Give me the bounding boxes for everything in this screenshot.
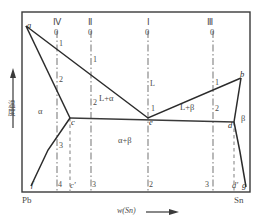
stage-number-II-3: 3 bbox=[92, 181, 96, 189]
solvus-left-curve bbox=[31, 118, 70, 186]
point-label-c-prime: c' bbox=[70, 181, 76, 190]
point-label-g: g bbox=[242, 181, 246, 190]
stage-label-I-L: L bbox=[150, 80, 155, 88]
region-label-liquid-plus-beta: L+β bbox=[180, 103, 194, 112]
point-label-a: a bbox=[27, 21, 31, 30]
x-axis-arrow bbox=[146, 209, 179, 215]
stage-number-II-2: 2 bbox=[93, 99, 97, 107]
axis-endpoint-pb: Pb bbox=[22, 196, 32, 205]
plot-frame bbox=[22, 12, 250, 192]
solidus-left-curve bbox=[26, 26, 70, 118]
region-label-liquid-plus-alpha: L+α bbox=[99, 94, 113, 103]
alloy-zero-I: 0 bbox=[145, 28, 149, 37]
stage-number-IV-2: 2 bbox=[59, 76, 63, 84]
point-label-d-prime: d' bbox=[232, 181, 238, 190]
alloy-zero-II: 0 bbox=[88, 28, 92, 37]
region-label-alpha-plus-beta: α+β bbox=[118, 136, 132, 145]
x-axis-label: w(Sn) bbox=[117, 207, 136, 215]
y-axis-label: 温度 bbox=[7, 100, 15, 116]
solvus-right-curve bbox=[234, 122, 246, 187]
alloy-label-III: Ⅲ bbox=[207, 18, 213, 27]
point-label-c: c bbox=[71, 118, 75, 127]
alloy-zero-IV: 0 bbox=[54, 28, 58, 37]
stage-number-III-2: 2 bbox=[215, 105, 219, 113]
alloy-label-IV: Ⅳ bbox=[53, 18, 61, 27]
point-label-d: d bbox=[228, 121, 232, 130]
point-label-e: e bbox=[149, 118, 153, 127]
y-axis-arrow bbox=[10, 68, 16, 128]
alloy-label-I: Ⅰ bbox=[147, 18, 150, 27]
stage-number-III-1: 1 bbox=[215, 79, 219, 87]
stage-number-II-1: 1 bbox=[93, 56, 97, 64]
axis-endpoint-sn: Sn bbox=[234, 196, 244, 205]
region-label-alpha: α bbox=[38, 107, 42, 116]
stage-number-IV-4: 4 bbox=[58, 181, 62, 189]
point-label-b: b bbox=[240, 70, 244, 79]
stage-number-III-3: 3 bbox=[205, 181, 209, 189]
stage-number-IV-3: 3 bbox=[59, 142, 63, 150]
phase-diagram-figure: Ⅳ 0 Ⅱ 0 Ⅰ 0 Ⅲ 0 1 2 3 4 1 2 3 L 1 2 1 2 … bbox=[0, 0, 262, 221]
region-label-beta: β bbox=[241, 114, 245, 123]
alloy-zero-III: 0 bbox=[210, 28, 214, 37]
alloy-label-II: Ⅱ bbox=[88, 18, 92, 27]
solidus-right-curve bbox=[234, 78, 241, 122]
stage-number-I-2: 2 bbox=[149, 181, 153, 189]
stage-number-I-1: 1 bbox=[151, 105, 155, 113]
point-label-f: f bbox=[31, 180, 33, 189]
stage-number-IV-1: 1 bbox=[59, 40, 63, 48]
